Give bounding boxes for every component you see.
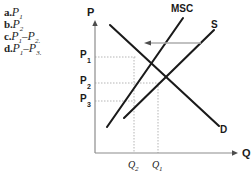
x-axis-title: Q: [242, 147, 251, 159]
y-tick-p3-base: P: [80, 93, 87, 104]
chart-curves: [107, 18, 219, 127]
y-tick-p3: P 3: [80, 93, 91, 108]
y-tick-p2-base: P: [80, 75, 87, 86]
x-tick-q2-subscript: 2: [135, 165, 139, 173]
curve-label-demand: D: [220, 124, 227, 135]
y-tick-p3-subscript: 3: [87, 101, 91, 108]
curve-label-msc: MSC: [171, 3, 193, 14]
answer-option-d-tail: .: [40, 49, 42, 57]
x-tick-q2: Q 2: [128, 159, 139, 173]
y-tick-p2-subscript: 2: [87, 83, 91, 90]
answer-option-d-base: P: [12, 41, 19, 55]
guide-lines: [95, 57, 160, 153]
chart-axes: [92, 20, 238, 156]
x-axis-arrowhead: [232, 150, 238, 155]
figure-root: a.P1 b.P2 c.P1–P2. d.P1–P3.: [0, 0, 252, 182]
supply-demand-chart: P Q MSC S D P 1 P 2 P 3 Q 2: [78, 0, 252, 182]
x-tick-q1: Q 1: [152, 159, 163, 173]
shift-arrow-head: [144, 40, 151, 45]
answer-option-d[interactable]: d.P1–P3.: [4, 42, 78, 54]
answer-option-a-letter: a.: [4, 6, 12, 18]
y-axis-title: P: [87, 6, 94, 18]
x-tick-q1-subscript: 1: [159, 165, 163, 173]
y-axis-arrowhead: [92, 20, 97, 26]
curve-label-supply: S: [211, 19, 218, 30]
y-tick-p1-base: P: [80, 49, 87, 60]
answer-options-list: a.P1 b.P2 c.P1–P2. d.P1–P3.: [4, 6, 78, 54]
shift-arrow-annotation: [144, 40, 201, 45]
y-tick-p1: P 1: [80, 49, 91, 64]
y-tick-p1-subscript: 1: [87, 57, 91, 64]
y-tick-p2: P 2: [80, 75, 91, 90]
